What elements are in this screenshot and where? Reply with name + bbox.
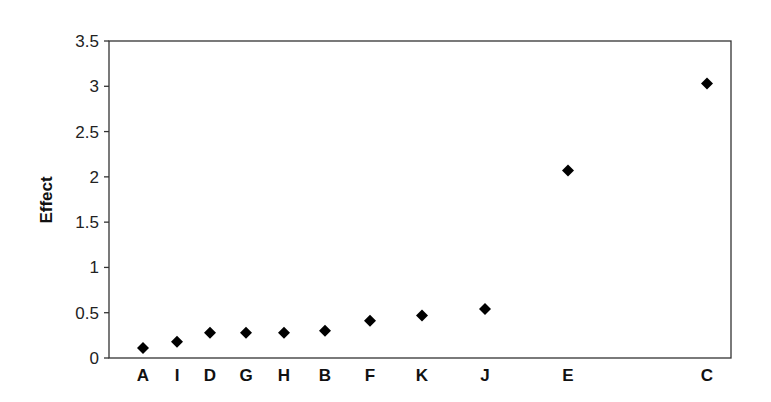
- x-category-label: B: [319, 366, 331, 385]
- y-tick-label: 1: [90, 258, 99, 277]
- x-category-label: K: [416, 366, 429, 385]
- x-category-label: I: [175, 366, 180, 385]
- y-axis-title: Effect: [37, 176, 56, 224]
- y-tick-label: 3: [90, 77, 99, 96]
- x-category-label: G: [239, 366, 252, 385]
- x-category-label: A: [137, 366, 149, 385]
- y-tick-label: 0.5: [75, 304, 99, 323]
- x-category-label: E: [562, 366, 573, 385]
- x-category-label: J: [480, 366, 489, 385]
- y-tick-label: 3.5: [75, 32, 99, 51]
- x-category-label: H: [278, 366, 290, 385]
- plot-area: [109, 41, 731, 358]
- y-tick-label: 1.5: [75, 213, 99, 232]
- x-category-label: D: [204, 366, 216, 385]
- x-axis: AIDGHBFKJEC: [137, 366, 713, 385]
- y-tick-label: 2.5: [75, 123, 99, 142]
- y-axis: 00.511.522.533.5: [75, 32, 109, 368]
- x-category-label: F: [365, 366, 375, 385]
- y-tick-label: 2: [90, 168, 99, 187]
- x-category-label: C: [701, 366, 713, 385]
- scatter-chart: 00.511.522.533.5 AIDGHBFKJEC Effect: [0, 0, 771, 402]
- y-tick-label: 0: [90, 349, 99, 368]
